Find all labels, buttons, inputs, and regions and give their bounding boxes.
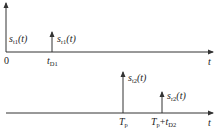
diagram-canvas: [0, 0, 219, 130]
label-st1: st1(t): [9, 34, 27, 47]
label-Tp-plus-tD2: Tp+tD2: [151, 117, 176, 130]
label-sr2: sr2(t): [167, 91, 186, 104]
top-panel: [6, 3, 213, 52]
label-sr1: sr1(t): [57, 34, 76, 47]
label-bottom-t-axis: t: [208, 118, 211, 128]
label-origin: 0: [4, 56, 9, 66]
label-Tp: Tp: [119, 117, 128, 130]
label-st2: st2(t): [128, 73, 146, 86]
label-top-t-axis: t: [208, 57, 211, 67]
label-tD1: tD1: [47, 56, 58, 69]
